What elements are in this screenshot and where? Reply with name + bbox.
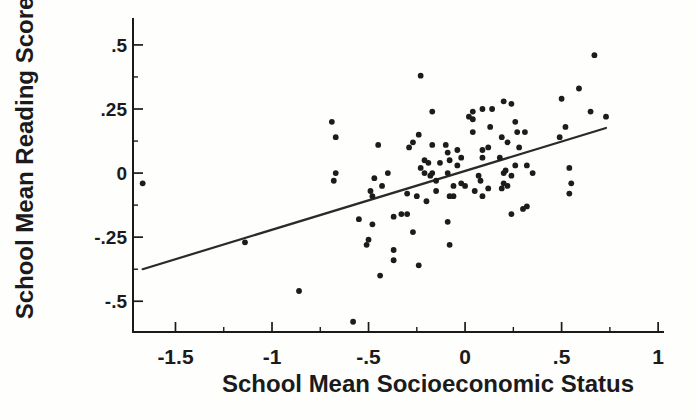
data-point	[603, 114, 609, 120]
data-point	[497, 155, 503, 161]
data-point	[242, 239, 248, 245]
data-point	[391, 257, 397, 263]
y-tick-label: -.25	[94, 227, 127, 248]
data-point	[592, 52, 598, 58]
data-point	[512, 119, 518, 125]
data-point	[499, 134, 505, 140]
y-tick-label: .5	[111, 35, 127, 56]
data-point	[391, 214, 397, 220]
data-point	[429, 170, 435, 176]
data-point	[501, 98, 507, 104]
data-point	[489, 106, 495, 112]
data-point	[530, 170, 536, 176]
y-tick-label: -.5	[105, 291, 128, 312]
data-point	[422, 170, 428, 176]
data-point	[140, 180, 146, 186]
data-point	[480, 106, 486, 112]
data-point	[458, 155, 464, 161]
data-point	[414, 193, 420, 199]
data-point	[480, 193, 486, 199]
data-point	[429, 142, 435, 148]
data-point	[424, 198, 430, 204]
data-point	[480, 147, 486, 153]
data-point	[476, 173, 482, 179]
x-tick-label: -1.5	[157, 345, 194, 368]
x-tick-label: .5	[553, 345, 571, 368]
scatter-plot: School Mean Socioeconomic Status School …	[0, 0, 695, 420]
data-point	[451, 183, 457, 189]
data-point	[356, 216, 362, 222]
data-point	[404, 191, 410, 197]
data-point	[512, 162, 518, 168]
data-point	[375, 142, 381, 148]
data-point	[443, 142, 449, 148]
data-point	[503, 168, 509, 174]
data-point	[505, 139, 511, 145]
data-point	[487, 124, 493, 130]
data-point	[404, 211, 410, 217]
data-point	[499, 186, 505, 192]
data-point	[509, 211, 515, 217]
data-point	[329, 119, 335, 125]
data-point	[333, 170, 339, 176]
data-point	[566, 165, 572, 171]
data-point	[451, 193, 457, 199]
data-point	[385, 170, 391, 176]
data-point	[296, 288, 302, 294]
data-point	[416, 132, 422, 138]
data-point	[472, 188, 478, 194]
data-point	[366, 237, 372, 243]
x-tick-label: -.5	[356, 345, 381, 368]
data-point	[522, 129, 528, 135]
data-point	[478, 178, 484, 184]
data-point	[370, 193, 376, 199]
data-point	[576, 86, 582, 92]
data-point	[454, 147, 460, 153]
data-point	[509, 101, 515, 107]
data-point	[371, 175, 377, 181]
data-point	[437, 160, 443, 166]
x-tick-label: 1	[652, 345, 664, 368]
y-tick-label: .25	[101, 99, 128, 120]
data-point	[433, 188, 439, 194]
data-point	[514, 129, 520, 135]
data-point	[559, 96, 565, 102]
data-point	[445, 219, 451, 225]
data-point	[379, 183, 385, 189]
data-point	[370, 221, 376, 227]
scatter-figure: School Mean Socioeconomic Status School …	[0, 0, 695, 420]
data-point	[364, 242, 370, 248]
regression-line	[143, 128, 606, 269]
data-point	[470, 116, 476, 122]
data-point	[557, 134, 563, 140]
x-axis-title: School Mean Socioeconomic Status	[222, 370, 634, 397]
data-point	[398, 211, 404, 217]
data-point	[433, 178, 439, 184]
data-point	[566, 191, 572, 197]
data-point	[391, 247, 397, 253]
data-point	[524, 204, 530, 210]
data-point	[447, 242, 453, 248]
data-point	[333, 134, 339, 140]
data-point	[563, 124, 569, 130]
data-point	[516, 145, 522, 151]
data-point	[470, 109, 476, 115]
data-point	[454, 162, 460, 168]
data-point	[445, 150, 451, 156]
data-point	[418, 73, 424, 79]
data-point	[368, 188, 374, 194]
data-point	[505, 183, 511, 189]
y-axis-title: School Mean Reading Score	[11, 0, 38, 319]
x-tick-label: -1	[263, 345, 282, 368]
data-point	[445, 170, 451, 176]
data-point	[418, 165, 424, 171]
data-point	[429, 109, 435, 115]
data-point	[485, 186, 491, 192]
data-point	[406, 145, 412, 151]
data-point	[331, 178, 337, 184]
data-point	[470, 129, 476, 135]
data-point	[410, 229, 416, 235]
data-point	[410, 139, 416, 145]
data-point	[447, 157, 453, 163]
data-point	[485, 145, 491, 151]
